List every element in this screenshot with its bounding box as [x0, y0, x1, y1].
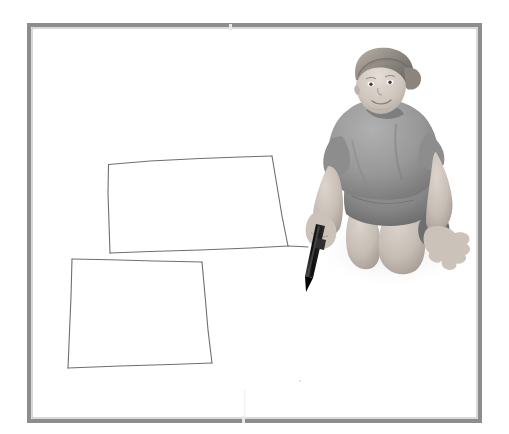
paper-speck: [299, 380, 301, 382]
eye-right-pupil: [388, 81, 391, 84]
photo-scene: Child drawing squares on floor A young c…: [0, 0, 509, 434]
border-seam-top: [229, 24, 232, 30]
photograph: [0, 0, 509, 434]
eye-left-pupil: [369, 83, 372, 86]
scan-seam-line: [244, 390, 245, 418]
